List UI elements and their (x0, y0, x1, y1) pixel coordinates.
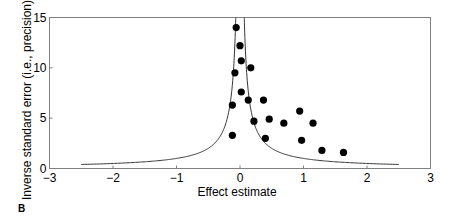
x-tick-label: −1 (170, 171, 184, 185)
data-point (245, 96, 252, 103)
data-point (298, 137, 305, 144)
data-point (238, 57, 245, 64)
data-point (280, 120, 287, 127)
data-point (340, 149, 347, 156)
y-axis-title: Inverse standard error (i.e., precision) (20, 0, 34, 200)
x-axis-title: Effect estimate (197, 185, 276, 199)
funnel-curve-left (81, 18, 236, 165)
data-point (262, 135, 269, 142)
y-tick-label: 0 (40, 162, 47, 176)
data-point (231, 69, 238, 76)
data-points (229, 24, 347, 156)
data-point (238, 88, 245, 95)
funnel-plot: −3−2−10123 051015 Effect estimate Invers… (0, 0, 455, 218)
data-point (236, 42, 243, 49)
y-tick-label: 10 (33, 61, 47, 75)
data-point (260, 96, 267, 103)
data-point (309, 120, 316, 127)
x-tick-label: 3 (427, 171, 434, 185)
x-tick-label: 0 (237, 171, 244, 185)
funnel-curve-right (244, 18, 399, 165)
data-point (266, 116, 273, 123)
x-tick-label: 1 (300, 171, 307, 185)
data-point (296, 108, 303, 115)
data-point (233, 24, 240, 31)
data-point (247, 64, 254, 71)
y-tick-label: 5 (40, 111, 47, 125)
x-tick-label: −2 (106, 171, 120, 185)
x-tick-label: 2 (364, 171, 371, 185)
panel-label: B (18, 203, 25, 214)
data-point (229, 101, 236, 108)
data-point (318, 147, 325, 154)
data-point (229, 132, 236, 139)
data-point (250, 118, 257, 125)
y-tick-label: 15 (33, 11, 47, 25)
